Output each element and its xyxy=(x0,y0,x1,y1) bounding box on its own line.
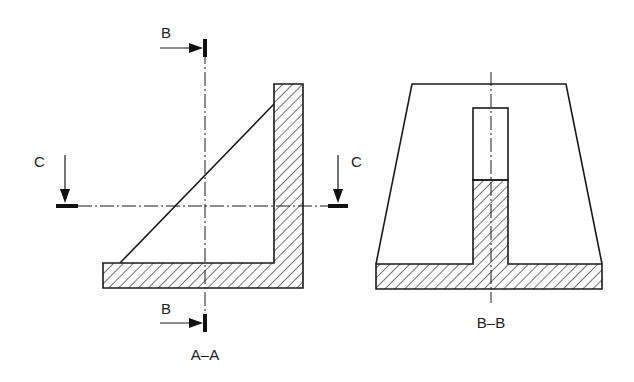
arrow-right-icon xyxy=(189,318,203,328)
section-view-b-b: B–B xyxy=(376,72,602,331)
arrow-right-icon xyxy=(189,43,203,53)
arrow-down-icon xyxy=(333,189,343,203)
section-marker-b-bottom: B xyxy=(160,300,205,332)
label-b-top: B xyxy=(161,24,171,41)
arrow-down-icon xyxy=(60,189,70,203)
t-section-hatched xyxy=(376,180,602,289)
l-section-hatched xyxy=(103,84,303,288)
rib-edge xyxy=(120,104,274,263)
section-view-a-a: B B C C A–A xyxy=(34,24,362,363)
view-caption-b-b: B–B xyxy=(477,314,505,331)
label-c-right: C xyxy=(351,153,362,170)
section-marker-c-right: C xyxy=(328,153,362,206)
section-marker-b-top: B xyxy=(160,24,205,57)
view-caption-a-a: A–A xyxy=(191,346,219,363)
section-marker-c-left: C xyxy=(34,153,78,206)
label-b-bottom: B xyxy=(161,300,171,317)
technical-drawing: B B C C A–A xyxy=(0,0,634,382)
label-c-left: C xyxy=(34,153,45,170)
